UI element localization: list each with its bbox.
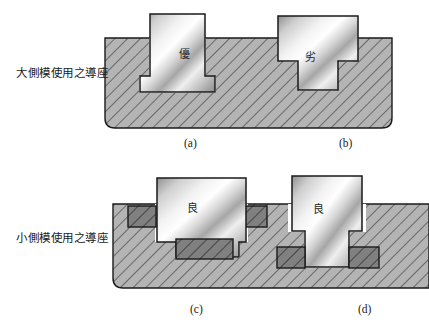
block-a-dovetail <box>140 14 215 92</box>
gib-d-right <box>349 247 379 268</box>
guide-seat-figure <box>0 0 429 334</box>
block-mark-a: 優 <box>179 45 190 61</box>
gib-c-left <box>128 206 156 227</box>
block-mark-c: 良 <box>187 199 198 215</box>
row-small-side-mold <box>113 176 429 288</box>
caption-a: (a) <box>184 137 197 149</box>
gib-d-left <box>277 247 305 268</box>
caption-c: (c) <box>190 303 203 315</box>
block-mark-d: 良 <box>313 200 324 216</box>
caption-d: (d) <box>358 303 371 315</box>
row-large-side-mold <box>105 14 392 128</box>
row-label-large-side-mold: 大側模使用之導座 <box>16 64 108 80</box>
gib-c-bottom <box>176 239 233 259</box>
row-label-small-side-mold: 小側模使用之導座 <box>16 229 108 245</box>
block-mark-b: 劣 <box>305 48 316 64</box>
caption-b: (b) <box>339 137 352 149</box>
